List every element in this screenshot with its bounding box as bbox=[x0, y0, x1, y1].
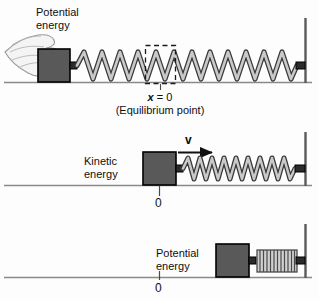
spring-nub-right-panel2 bbox=[295, 165, 305, 172]
origin-label-panel3: 0 bbox=[155, 281, 162, 295]
spring-nub-right-panel1 bbox=[296, 62, 305, 69]
panel2-energy-label-line1: Kinetic bbox=[84, 155, 117, 167]
panel3-energy-label: Potential energy bbox=[156, 247, 199, 273]
panel-kinetic-middle-graphics bbox=[4, 132, 312, 196]
equilibrium-x-value: = 0 bbox=[154, 91, 173, 103]
panel1-energy-label: Potential energy bbox=[36, 6, 79, 32]
equilibrium-label-group: x = 0 (Equilibrium point) bbox=[100, 91, 220, 117]
panel1-energy-label-line1: Potential bbox=[36, 6, 79, 18]
panel3-energy-label-line2: energy bbox=[156, 260, 190, 272]
equilibrium-x-label: x = 0 bbox=[100, 91, 220, 104]
panel2-energy-label: Kinetic energy bbox=[84, 155, 118, 181]
origin-label-panel2: 0 bbox=[155, 196, 162, 210]
spring-nub-right-panel3 bbox=[296, 257, 305, 264]
block-panel1 bbox=[38, 49, 70, 82]
block-panel2 bbox=[143, 152, 176, 185]
panel3-energy-label-line1: Potential bbox=[156, 247, 199, 259]
equilibrium-sublabel: (Equilibrium point) bbox=[100, 104, 220, 117]
panel1-energy-label-line2: energy bbox=[36, 19, 70, 31]
panel2-energy-label-line2: energy bbox=[84, 168, 118, 180]
spring-energy-diagram: Potential energy x = 0 (Equilibrium poin… bbox=[0, 0, 319, 301]
spring-nub-left-panel3 bbox=[249, 257, 256, 264]
velocity-label: v bbox=[185, 133, 192, 147]
block-panel3 bbox=[216, 244, 249, 277]
